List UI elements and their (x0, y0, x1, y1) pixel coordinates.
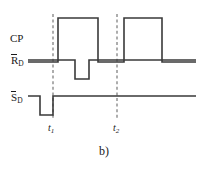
time-marker-label-t1: t1 (48, 123, 54, 135)
time-marker-label-t2-subscript: 2 (116, 127, 120, 135)
time-marker-lines (53, 14, 117, 120)
signal-trace-sd (28, 96, 196, 115)
signal-label-cp-text: CP (10, 32, 23, 44)
time-marker-label-t2: t2 (113, 123, 119, 135)
timing-diagram-figure: CP RD SD t1 t2 b) (0, 0, 208, 169)
time-marker-label-t1-subscript: 1 (51, 127, 55, 135)
signal-label-sd: SD (11, 91, 23, 105)
signal-label-sd-base: S (11, 91, 17, 103)
signal-label-sd-subscript: D (17, 96, 22, 105)
signal-label-rd-base: R (11, 54, 18, 66)
signal-label-cp: CP (10, 33, 23, 44)
signal-label-rd: RD (11, 54, 24, 68)
figure-caption: b) (0, 145, 208, 157)
signal-label-rd-subscript: D (18, 59, 23, 68)
